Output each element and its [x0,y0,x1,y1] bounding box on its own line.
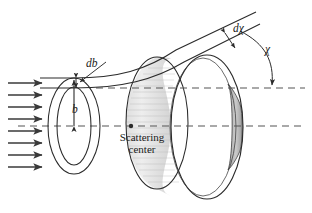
scattering-cross-section-figure: db b dχ χ Scattering center [0,0,312,213]
db-leader-line [80,62,106,82]
scattering-center-marker [129,124,133,128]
scattering-angle-arc [240,31,272,85]
scattering-diagram-canvas [0,0,312,213]
incident-beam-arrows [8,83,42,167]
